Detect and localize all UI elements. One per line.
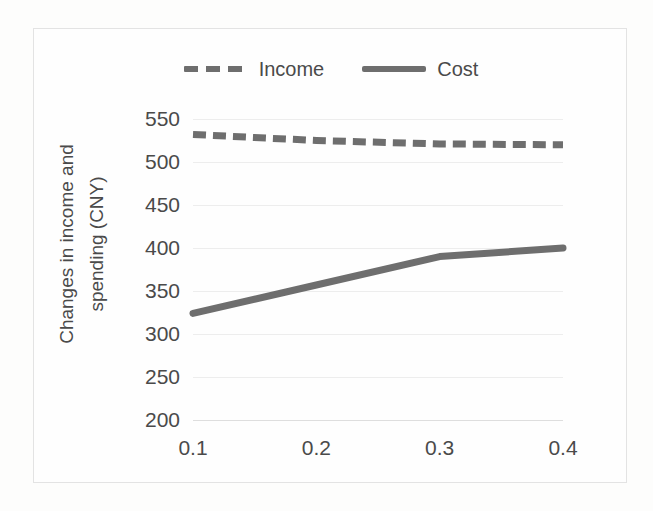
y-axis-title-line-2: spending (CNY) xyxy=(82,99,112,389)
y-axis-tick-200: 200 xyxy=(145,408,180,432)
y-axis-tick-350: 350 xyxy=(145,279,180,303)
y-axis-tick-250: 250 xyxy=(145,365,180,389)
y-axis-title: Changes in income and spending (CNY) xyxy=(52,0,116,99)
series-plot xyxy=(193,119,563,420)
x-axis-tick-0-4: 0.4 xyxy=(548,436,577,460)
legend-label-income: Income xyxy=(259,59,325,79)
plot-area: 550500450400350300250200 0.10.20.30.4 xyxy=(193,119,563,420)
y-axis-tick-450: 450 xyxy=(145,193,180,217)
legend-item-income: Income xyxy=(184,59,325,79)
y-axis-tick-550: 550 xyxy=(145,107,180,131)
x-axis-tick-0-2: 0.2 xyxy=(302,436,331,460)
legend-key-income-icon xyxy=(184,66,248,72)
gridline-200 xyxy=(193,420,563,421)
x-axis-tick-0-1: 0.1 xyxy=(178,436,207,460)
legend-label-cost: Cost xyxy=(437,59,478,79)
y-axis-title-line-1: Changes in income and xyxy=(52,99,82,389)
y-axis-tick-400: 400 xyxy=(145,236,180,260)
chart-frame: Income Cost Changes in income and spendi… xyxy=(33,28,627,483)
legend-key-cost-icon xyxy=(362,66,426,72)
series-line-income xyxy=(193,134,563,144)
y-axis-tick-500: 500 xyxy=(145,150,180,174)
chart-legend: Income Cost xyxy=(34,54,628,84)
legend-item-cost: Cost xyxy=(362,59,478,79)
scanned-page-background: Income Cost Changes in income and spendi… xyxy=(0,0,653,511)
x-axis-tick-0-3: 0.3 xyxy=(425,436,454,460)
y-axis-title-text: Changes in income and spending (CNY) xyxy=(52,99,112,389)
y-axis-tick-300: 300 xyxy=(145,322,180,346)
series-line-cost xyxy=(193,248,563,313)
